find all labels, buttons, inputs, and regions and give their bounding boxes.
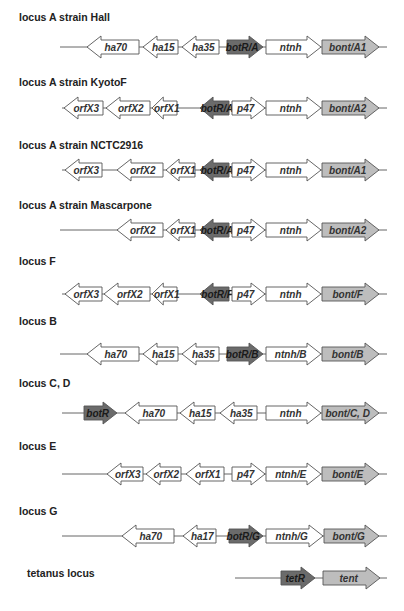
- gene-label: ha70: [142, 408, 165, 419]
- locus-track: orfX3orfX2orfX1botR/Ap47ntnhbont/A2: [62, 97, 387, 119]
- gene-label: ha15: [152, 349, 175, 360]
- gene-label: orfX1: [170, 225, 196, 236]
- gene-label: ntnh: [280, 165, 302, 176]
- gene-label: orfX1: [154, 289, 180, 300]
- gene-label: ha15: [189, 408, 212, 419]
- gene-label: orfX3: [115, 469, 141, 480]
- gene-label: orfX3: [74, 289, 100, 300]
- gene-label: botR/A: [201, 225, 234, 236]
- gene-label: tetR: [285, 573, 305, 584]
- locus-track: orfX3orfX2orfX1p47ntnh/Ebont/E: [62, 463, 387, 485]
- gene-label: bont/A1: [329, 165, 367, 176]
- gene-label: botR: [86, 408, 110, 419]
- locus-track: orfX3orfX2orfX1botR/Fp47ntnhbont/F: [62, 283, 387, 305]
- gene-label: botR/F: [201, 289, 234, 300]
- gene-label: bont/B: [332, 349, 364, 360]
- gene-label: bont/A2: [329, 225, 367, 236]
- locus-track: tetRtent: [235, 567, 387, 589]
- gene-label: botR/G: [227, 531, 261, 542]
- gene-label: ntnh/G: [276, 531, 308, 542]
- gene-label: bont/F: [332, 289, 363, 300]
- gene-label: p47: [236, 103, 255, 114]
- gene-label: bont/A1: [329, 42, 367, 53]
- locus-track: ha70ha15ha35botR/Bntnh/Bbont/B: [60, 343, 387, 365]
- locus-track: botRha70ha15ha35ntnhbont/C, D: [62, 402, 387, 424]
- gene-label: orfX1: [170, 165, 196, 176]
- gene-label: p47: [236, 165, 255, 176]
- gene-label: ntnh: [280, 42, 302, 53]
- gene-label: p47: [236, 289, 255, 300]
- locus-track: orfX3orfX2orfX1botR/Ap47ntnhbont/A1: [62, 159, 387, 181]
- gene-label: ha70: [104, 42, 127, 53]
- gene-label: botR/B: [226, 349, 259, 360]
- gene-label: orfX1: [195, 469, 221, 480]
- gene-label: bont/A2: [329, 103, 367, 114]
- gene-label: orfX2: [117, 289, 143, 300]
- gene-label: ntnh/E: [275, 469, 306, 480]
- gene-label: ha35: [192, 42, 215, 53]
- gene-label: p47: [236, 469, 255, 480]
- gene-label: ha70: [139, 531, 162, 542]
- gene-label: botR/A: [226, 42, 259, 53]
- gene-label: ntnh: [280, 289, 302, 300]
- gene-label: ntnh: [280, 225, 302, 236]
- gene-label: orfX3: [74, 165, 100, 176]
- locus-track: ha70ha17botR/Gntnh/Gbont/G: [62, 525, 387, 547]
- gene-label: ha15: [152, 42, 175, 53]
- gene-label: ha35: [192, 349, 215, 360]
- gene-label: ha17: [191, 531, 214, 542]
- gene-label: orfX1: [154, 103, 180, 114]
- gene-label: orfX2: [154, 469, 180, 480]
- gene-label: bont/E: [332, 469, 363, 480]
- gene-label: ntnh: [280, 408, 302, 419]
- gene-label: bont/C, D: [325, 408, 369, 419]
- gene-label: tent: [340, 573, 359, 584]
- gene-label: ntnh/B: [275, 349, 307, 360]
- gene-label: orfX2: [130, 225, 156, 236]
- gene-label: orfX2: [118, 103, 144, 114]
- gene-arrow-canvas: ha70ha15ha35botR/Antnhbont/A1orfX3orfX2o…: [0, 0, 404, 611]
- gene-locus-diagram: locus A strain Halllocus A strain KyotoF…: [0, 0, 404, 611]
- gene-label: bont/G: [333, 531, 365, 542]
- gene-label: orfX3: [74, 103, 100, 114]
- gene-label: ha70: [104, 349, 127, 360]
- gene-label: orfX2: [130, 165, 156, 176]
- gene-label: botR/A: [201, 165, 234, 176]
- locus-track: orfX2orfX1botR/Ap47ntnhbont/A2: [60, 219, 387, 241]
- locus-track: ha70ha15ha35botR/Antnhbont/A1: [60, 36, 387, 58]
- gene-label: p47: [236, 225, 255, 236]
- gene-label: botR/A: [201, 103, 234, 114]
- gene-label: ha35: [230, 408, 253, 419]
- gene-label: ntnh: [280, 103, 302, 114]
